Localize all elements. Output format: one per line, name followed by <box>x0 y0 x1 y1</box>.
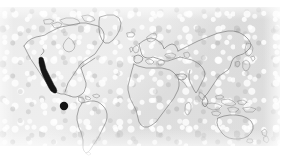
world-distribution-map-figure: shaded distribution range isolated recor… <box>0 0 297 167</box>
landmass-africa <box>128 64 191 127</box>
landmass-british-isles <box>130 45 139 53</box>
point-record-eastern-pacific <box>60 102 68 110</box>
landmass-south-america <box>77 101 107 155</box>
landmass-new-zealand <box>262 129 269 143</box>
landmass-iceland <box>127 32 135 37</box>
landmass-greenland <box>99 15 121 43</box>
landmass-australia <box>217 115 253 143</box>
shaded-range-pacific-coast-north-america <box>39 49 57 93</box>
landmass-north-america <box>24 15 104 97</box>
landmass-asia <box>178 31 255 107</box>
landmass-europe <box>134 33 180 65</box>
landmass-southeast-asia-islands <box>206 95 256 116</box>
world-map-graphic <box>0 0 297 167</box>
